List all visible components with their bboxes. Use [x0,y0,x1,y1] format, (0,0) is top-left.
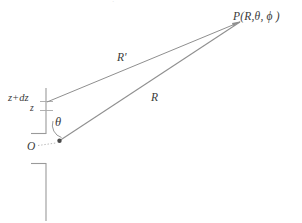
label-z: z [30,104,34,114]
origin-leader-dotted [38,143,56,146]
label-r: R [151,92,158,104]
label-r-prime: R' [117,52,126,64]
figure-canvas: · P(R,θ, ϕ ) R' R z+dz z θ O [0,0,302,223]
label-z-plus-dz: z+dz [8,93,29,104]
label-point-p: P(R,θ, ϕ ) [233,11,280,23]
label-origin: O [27,141,35,153]
origin-dot [57,139,61,143]
r-line [59,22,240,141]
label-theta: θ [55,116,61,129]
r-prime-line [47,22,240,102]
diagram-svg [0,0,302,223]
top-edge-artifact: · [112,0,114,6]
